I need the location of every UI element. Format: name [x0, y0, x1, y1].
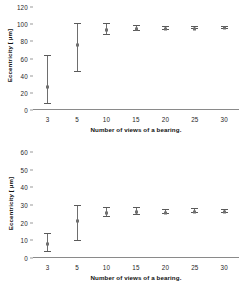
errorbar-cap-lower	[44, 251, 51, 252]
x-tick-label: 10	[103, 116, 110, 123]
x-tick-label: 20	[162, 264, 169, 271]
y-tick-mark	[30, 152, 33, 153]
x-tick-label: 30	[221, 116, 228, 123]
errorbar-cap-lower	[103, 216, 110, 217]
errorbar-cap-lower	[44, 103, 51, 104]
data-point-errorbar	[133, 7, 140, 110]
mean-marker	[46, 242, 49, 245]
mean-marker	[135, 28, 138, 31]
errorbar-cap-upper	[74, 23, 81, 24]
errorbar-line	[77, 205, 78, 240]
mean-marker	[135, 210, 138, 213]
data-point-errorbar	[103, 7, 110, 110]
x-tick-label: 3	[46, 264, 50, 271]
y-tick-mark	[30, 110, 33, 111]
data-point-errorbar	[162, 7, 169, 110]
data-point-errorbar	[162, 152, 169, 258]
x-tick-label: 5	[75, 116, 79, 123]
errorbar-cap-upper	[74, 205, 81, 206]
errorbar-line	[77, 23, 78, 71]
mean-marker	[46, 86, 49, 89]
plot-area-bottom: 0102030405060351015202530	[33, 152, 239, 258]
mean-marker	[193, 210, 196, 213]
x-tick-label: 20	[162, 116, 169, 123]
errorbar-cap-lower	[74, 71, 81, 72]
x-tick-label: 25	[191, 264, 198, 271]
x-axis-title-top: Number of views of a bearing.	[33, 126, 239, 133]
mean-marker	[76, 43, 79, 46]
data-point-errorbar	[221, 152, 228, 258]
data-point-errorbar	[103, 152, 110, 258]
errorbar-cap-lower	[133, 214, 140, 215]
mean-marker	[76, 219, 79, 222]
y-tick-mark	[30, 75, 33, 76]
data-point-errorbar	[191, 7, 198, 110]
errorbar-line	[47, 55, 48, 103]
mean-marker	[105, 28, 108, 31]
errorbar-cap-lower	[74, 240, 81, 241]
errorbar-cap-upper	[103, 207, 110, 208]
y-tick-mark	[30, 240, 33, 241]
mean-marker	[223, 27, 226, 30]
x-tick-label: 25	[191, 116, 198, 123]
mean-marker	[164, 28, 167, 31]
mean-marker	[164, 211, 167, 214]
chart-bottom: 0102030405060351015202530 Eccentricity […	[0, 145, 251, 290]
data-point-errorbar	[133, 152, 140, 258]
errorbar-cap-upper	[44, 233, 51, 234]
y-tick-mark	[30, 24, 33, 25]
errorbar-cap-upper	[133, 207, 140, 208]
y-tick-mark	[30, 58, 33, 59]
x-tick-label: 15	[132, 116, 139, 123]
y-tick-mark	[30, 205, 33, 206]
y-tick-mark	[30, 7, 33, 8]
plot-area-top: 020406080100120351015202530	[33, 7, 239, 110]
figure-container: 020406080100120351015202530 Eccentricity…	[0, 0, 251, 290]
x-tick-label: 3	[46, 116, 50, 123]
errorbar-cap-upper	[133, 25, 140, 26]
y-tick-mark	[30, 169, 33, 170]
x-tick-label: 5	[75, 264, 79, 271]
y-tick-mark	[30, 41, 33, 42]
mean-marker	[105, 211, 108, 214]
errorbar-cap-upper	[103, 23, 110, 24]
mean-marker	[223, 210, 226, 213]
x-axis-title-bottom: Number of views of a bearing.	[33, 274, 239, 281]
errorbar-cap-lower	[103, 34, 110, 35]
y-tick-mark	[30, 92, 33, 93]
y-tick-mark	[30, 258, 33, 259]
chart-top: 020406080100120351015202530 Eccentricity…	[0, 0, 251, 145]
data-point-errorbar	[74, 152, 81, 258]
x-tick-label: 15	[132, 264, 139, 271]
data-point-errorbar	[44, 7, 51, 110]
y-axis-title-top: Eccentricity [ µm]	[6, 21, 13, 91]
data-point-errorbar	[191, 152, 198, 258]
data-point-errorbar	[44, 152, 51, 258]
errorbar-cap-upper	[44, 55, 51, 56]
y-tick-mark	[30, 187, 33, 188]
data-point-errorbar	[221, 7, 228, 110]
y-tick-mark	[30, 222, 33, 223]
errorbar-cap-upper	[191, 208, 198, 209]
y-axis-title-bottom: Eccentricity [ µm]	[7, 169, 14, 239]
data-point-errorbar	[74, 7, 81, 110]
x-tick-label: 30	[221, 264, 228, 271]
x-tick-label: 10	[103, 264, 110, 271]
mean-marker	[193, 27, 196, 30]
